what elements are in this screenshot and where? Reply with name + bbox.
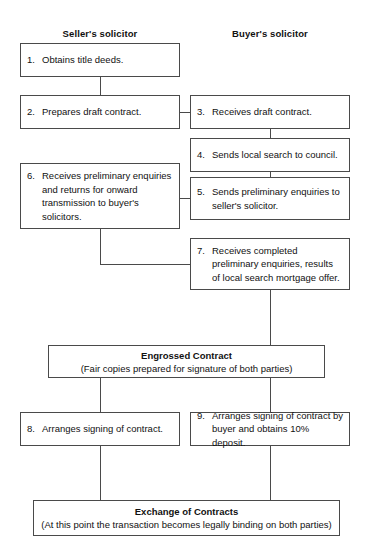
node-6-text: Receives preliminary enquiries and retur… — [42, 169, 173, 223]
node-1-content: 1. Obtains title deeds. — [21, 53, 179, 67]
connector-5-to-6 — [180, 198, 190, 199]
node-3-content: 3. Receives draft contract. — [191, 105, 349, 119]
connector-2-to-3 — [180, 112, 190, 113]
banner-engrossed-subtitle: (Fair copies prepared for signature of b… — [81, 362, 293, 375]
node-6[interactable]: 6. Receives preliminary enquiries and re… — [20, 163, 180, 229]
node-4-text: Sends local search to council. — [212, 148, 343, 162]
connector-6-to-7 — [100, 264, 190, 265]
conveyancing-flowchart: Seller's solicitor Buyer's solicitor 1. … — [0, 0, 371, 559]
node-7[interactable]: 7. Receives completed preliminary enquir… — [190, 238, 350, 290]
node-9-number: 9. — [197, 409, 212, 423]
connector-8-to-exchange — [100, 446, 101, 500]
node-7-number: 7. — [197, 244, 212, 258]
node-9[interactable]: 9. Arranges signing of contract by buyer… — [190, 412, 350, 446]
node-4-content: 4. Sends local search to council. — [191, 148, 349, 162]
node-5-text: Sends preliminary enquiries to seller's … — [212, 185, 343, 212]
node-4[interactable]: 4. Sends local search to council. — [190, 138, 350, 172]
node-3-text: Receives draft contract. — [212, 105, 343, 119]
node-9-content: 9. Arranges signing of contract by buyer… — [191, 409, 349, 450]
connector-1-to-2 — [100, 77, 101, 95]
node-6-number: 6. — [27, 169, 42, 183]
node-7-text: Receives completed preliminary enquiries… — [212, 244, 343, 285]
node-8-content: 8. Arranges signing of contract. — [21, 422, 179, 436]
node-3-number: 3. — [197, 105, 212, 119]
node-6-content: 6. Receives preliminary enquiries and re… — [21, 169, 179, 223]
node-9-text: Arranges signing of contract by buyer an… — [212, 409, 343, 450]
connector-9-to-exchange — [270, 446, 271, 500]
node-3[interactable]: 3. Receives draft contract. — [190, 95, 350, 129]
connector-3-to-4 — [270, 129, 271, 138]
column-heading-seller: Seller's solicitor — [20, 28, 180, 39]
connector-engrossed-to-9 — [270, 378, 271, 412]
node-2-content: 2. Prepares draft contract. — [21, 105, 179, 119]
connector-engrossed-to-8 — [100, 378, 101, 412]
node-1-text: Obtains title deeds. — [42, 53, 173, 67]
node-5-content: 5. Sends preliminary enquiries to seller… — [191, 185, 349, 212]
node-8-text: Arranges signing of contract. — [42, 422, 173, 436]
banner-engrossed-contract[interactable]: Engrossed Contract (Fair copies prepared… — [48, 345, 325, 378]
node-2-text: Prepares draft contract. — [42, 105, 173, 119]
banner-exchange-subtitle: (At this point the transaction becomes l… — [41, 518, 331, 531]
node-1[interactable]: 1. Obtains title deeds. — [20, 43, 180, 77]
node-7-content: 7. Receives completed preliminary enquir… — [191, 244, 349, 285]
node-2-number: 2. — [27, 105, 42, 119]
node-4-number: 4. — [197, 148, 212, 162]
node-2[interactable]: 2. Prepares draft contract. — [20, 95, 180, 129]
connector-6-down — [100, 229, 101, 264]
connector-7-to-engrossed — [270, 290, 271, 345]
column-heading-buyer: Buyer's solicitor — [190, 28, 350, 39]
node-5[interactable]: 5. Sends preliminary enquiries to seller… — [190, 177, 350, 220]
node-8[interactable]: 8. Arranges signing of contract. — [20, 412, 180, 446]
node-1-number: 1. — [27, 53, 42, 67]
node-5-number: 5. — [197, 185, 212, 199]
banner-exchange-title: Exchange of Contracts — [135, 505, 238, 518]
node-8-number: 8. — [27, 422, 42, 436]
banner-exchange-of-contracts[interactable]: Exchange of Contracts (At this point the… — [33, 500, 340, 536]
banner-engrossed-title: Engrossed Contract — [141, 349, 232, 362]
